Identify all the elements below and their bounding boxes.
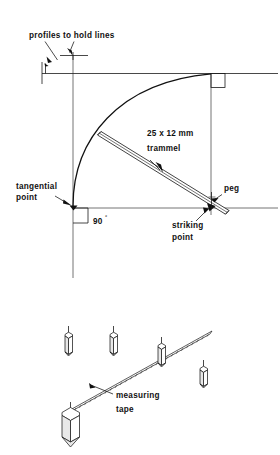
technical-drawing-figure: profiles to hold lines 25 x 12 mm tramme… bbox=[0, 0, 280, 455]
label-tape: tape bbox=[116, 405, 134, 414]
label-trammel-size: 25 x 12 mm bbox=[147, 129, 194, 138]
list-item bbox=[65, 326, 73, 356]
label-peg: peg bbox=[224, 184, 239, 193]
leader-profiles-right-arrow bbox=[67, 48, 73, 56]
left-corner-profile-tip bbox=[44, 63, 48, 66]
label-tangential: tangential bbox=[16, 182, 57, 191]
right-angle-symbol bbox=[73, 208, 88, 223]
label-striking-point: point bbox=[172, 233, 193, 242]
lower-diagram: measuring tape bbox=[62, 326, 212, 447]
label-measuring: measuring bbox=[116, 391, 160, 400]
label-angle-degree-symbol: ° bbox=[105, 214, 107, 220]
list-item bbox=[200, 360, 208, 388]
leader-measuring-tape-arrow bbox=[89, 383, 96, 389]
list-item bbox=[158, 337, 166, 367]
right-profile-square bbox=[211, 74, 225, 88]
leader-profiles-left-arrow bbox=[47, 57, 53, 64]
upper-diagram: profiles to hold lines 25 x 12 mm tramme… bbox=[16, 31, 278, 278]
label-striking: striking bbox=[172, 221, 204, 230]
label-angle: 90 bbox=[93, 217, 103, 226]
label-tangential-point: point bbox=[16, 193, 37, 202]
figure-canvas: profiles to hold lines 25 x 12 mm tramme… bbox=[0, 0, 280, 455]
label-profiles: profiles to hold lines bbox=[29, 31, 115, 40]
leader-tangential-arrow bbox=[63, 200, 72, 206]
label-trammel-name: trammel bbox=[147, 144, 181, 153]
list-item bbox=[62, 402, 80, 447]
list-item bbox=[110, 326, 118, 356]
